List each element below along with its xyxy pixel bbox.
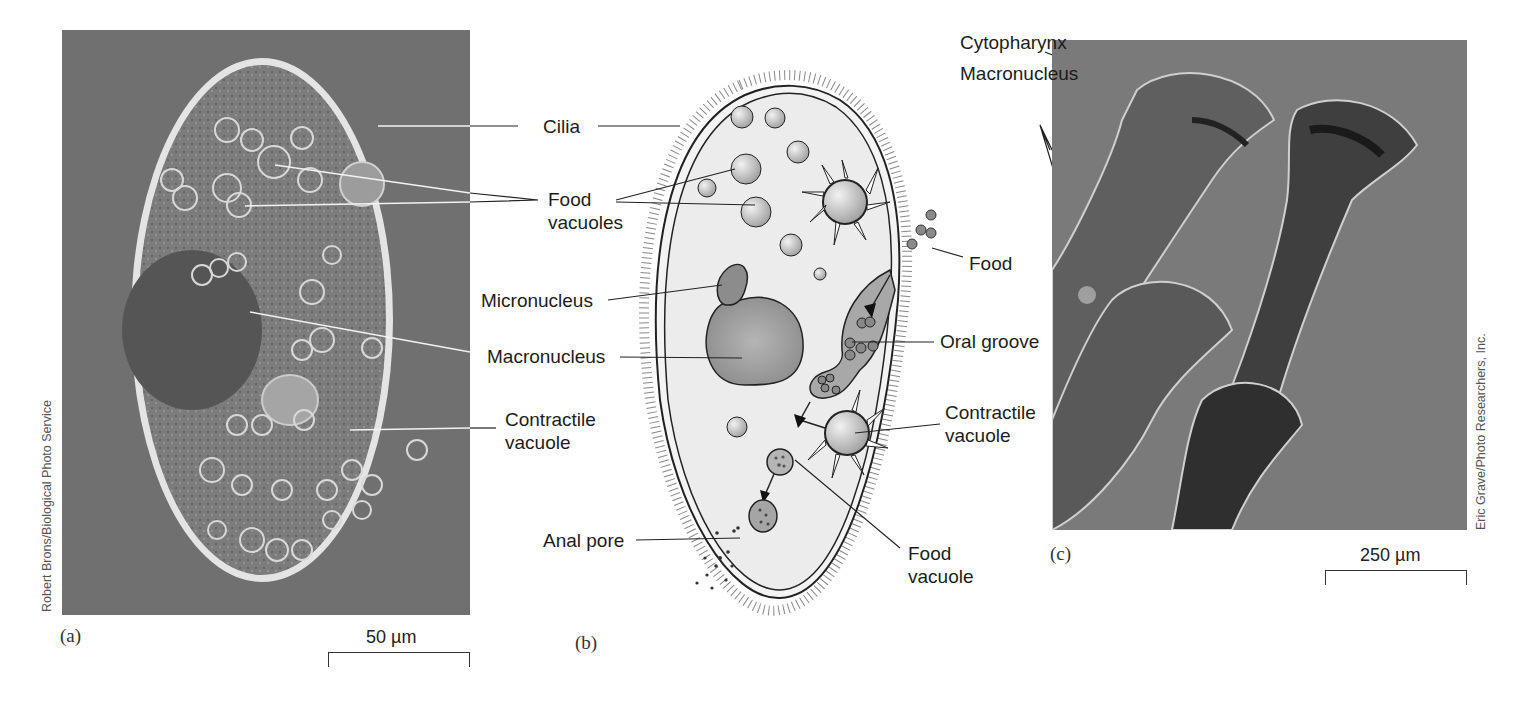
photo-credit-a: Robert Brons/Biological Photo Service [40,400,54,612]
label-micronucleus: Micronucleus [481,289,593,312]
label-contractile-vacuole-right-line1: Contractile [945,401,1036,424]
scale-label-c: 250 µm [1360,545,1420,566]
paramecium-photo-a [62,30,470,615]
label-food-vacuoles-line2: vacuoles [548,211,623,234]
photo-credit-c: Eric Grave/Photo Researchers, Inc. [1474,333,1488,530]
label-food: Food [969,252,1012,275]
micrograph-c [1052,40,1467,530]
label-food-vacuoles-line1: Food [548,188,591,211]
scale-label-a: 50 µm [366,627,416,648]
label-macronucleus: Macronucleus [487,345,605,368]
scale-bar-a [328,652,470,667]
label-food-vacuole-line2: vacuole [908,565,974,588]
label-cilia: Cilia [543,115,580,138]
label-anal-pore: Anal pore [543,529,624,552]
label-food-vacuole-line1: Food [908,542,951,565]
label-contractile-vacuole-line1: Contractile [505,408,596,431]
label-contractile-vacuole-right-line2: vacuole [945,424,1011,447]
label-cytopharynx: Cytopharynx [960,31,1067,54]
stentor-photo-c [1052,40,1467,530]
scale-bar-c [1325,570,1467,585]
panel-letter-a: (a) [60,625,81,647]
panel-letter-b: (b) [575,632,597,654]
label-contractile-vacuole-line2: vacuole [505,431,571,454]
micrograph-a [62,30,470,615]
label-macronucleus-c: Macronucleus [960,62,1078,85]
label-oral-groove: Oral groove [940,330,1039,353]
panel-letter-c: (c) [1050,543,1071,565]
